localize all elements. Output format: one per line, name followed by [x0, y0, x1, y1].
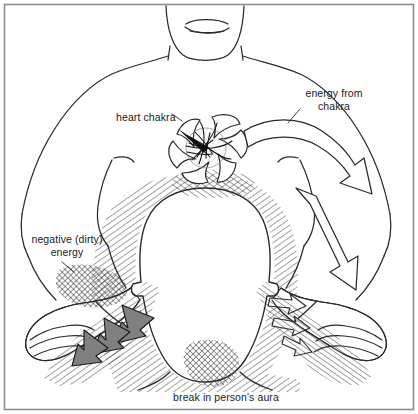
label-break-in-aura: break in person's aura — [173, 391, 279, 403]
label-negative-energy-line1: negative (dirty) — [31, 233, 102, 245]
figure-canvas: heart chakra energy from chakra negative… — [0, 0, 418, 414]
aura-healing-figure: heart chakra energy from chakra negative… — [0, 0, 418, 414]
label-energy-from-chakra-line1: energy from — [305, 87, 362, 99]
label-heart-chakra: heart chakra — [116, 111, 176, 123]
label-negative-energy-line2: energy — [51, 246, 84, 258]
label-energy-from-chakra-line2: chakra — [318, 100, 350, 112]
